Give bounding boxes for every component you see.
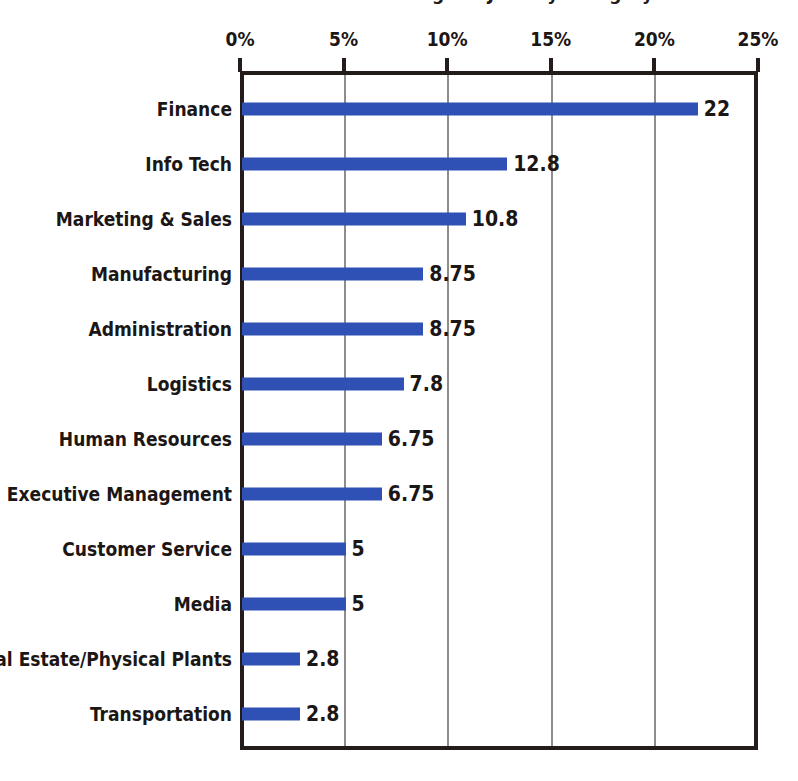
x-tick-mark-4 — [652, 58, 656, 72]
bar-row: Media5 — [0, 576, 798, 631]
x-tick-label-0: 0% — [225, 28, 254, 50]
x-tick-label-2: 10% — [427, 28, 468, 50]
bar-row: Administration8.75 — [0, 301, 798, 356]
category-label: Media — [174, 593, 232, 615]
bar-row: Customer Service5 — [0, 521, 798, 576]
bar-value-label: 7.8 — [410, 372, 443, 396]
bar-value-label: 8.75 — [429, 317, 476, 341]
category-label: Info Tech — [145, 153, 232, 175]
bar-value-label: 5 — [352, 537, 365, 561]
bar-row: Marketing & Sales10.8 — [0, 191, 798, 246]
bar — [242, 102, 698, 115]
bar-value-label: 8.75 — [429, 262, 476, 286]
bar-value-label: 22 — [704, 97, 730, 121]
bar — [242, 652, 300, 665]
bar — [242, 267, 423, 280]
bar — [242, 707, 300, 720]
category-label: Manufacturing — [91, 263, 232, 285]
bar — [242, 322, 423, 335]
x-tick-mark-2 — [445, 58, 449, 72]
x-axis-tick-marks — [0, 58, 798, 72]
bar-value-label: 5 — [352, 592, 365, 616]
bar-row: Human Resources6.75 — [0, 411, 798, 466]
x-tick-mark-0 — [238, 58, 242, 72]
chart-title: Percentage of Jobs by Category — [240, 0, 758, 4]
bar-row: Manufacturing8.75 — [0, 246, 798, 301]
bar — [242, 542, 346, 555]
x-tick-label-3: 15% — [530, 28, 571, 50]
x-tick-mark-1 — [342, 58, 346, 72]
bar — [242, 212, 466, 225]
category-label: Customer Service — [62, 538, 232, 560]
bar — [242, 597, 346, 610]
x-tick-label-5: 25% — [738, 28, 779, 50]
bar — [242, 432, 382, 445]
category-label: Executive Management — [7, 483, 232, 505]
bar-row: Executive Management6.75 — [0, 466, 798, 521]
x-tick-label-4: 20% — [634, 28, 675, 50]
bar-value-label: 12.8 — [513, 152, 560, 176]
bar-row: Info Tech12.8 — [0, 136, 798, 191]
x-tick-label-1: 5% — [329, 28, 358, 50]
bar — [242, 157, 507, 170]
x-axis-tick-labels: 0%5%10%15%20%25% — [0, 28, 798, 54]
bar-chart: Percentage of Jobs by Category 0%5%10%15… — [0, 0, 798, 781]
bar — [242, 377, 404, 390]
bar-value-label: 6.75 — [388, 427, 435, 451]
bar-row: Transportation2.8 — [0, 686, 798, 741]
bar-value-label: 6.75 — [388, 482, 435, 506]
bar-row: Finance22 — [0, 81, 798, 136]
bar-row: Real Estate/Physical Plants2.8 — [0, 631, 798, 686]
bar — [242, 487, 382, 500]
x-tick-mark-3 — [549, 58, 553, 72]
bar-row: Logistics7.8 — [0, 356, 798, 411]
bar-value-label: 10.8 — [472, 207, 519, 231]
category-label: Human Resources — [59, 428, 232, 450]
bar-value-label: 2.8 — [306, 647, 339, 671]
category-label: Finance — [157, 98, 232, 120]
chart-title-clipped: Percentage of Jobs by Category — [240, 0, 758, 14]
category-label: Logistics — [147, 373, 232, 395]
bar-rows: Finance22Info Tech12.8Marketing & Sales1… — [0, 71, 798, 750]
category-label: Transportation — [90, 703, 232, 725]
bar-value-label: 2.8 — [306, 702, 339, 726]
category-label: Marketing & Sales — [56, 208, 232, 230]
category-label: Administration — [89, 318, 232, 340]
x-tick-mark-5 — [756, 58, 760, 72]
category-label: Real Estate/Physical Plants — [0, 648, 232, 670]
